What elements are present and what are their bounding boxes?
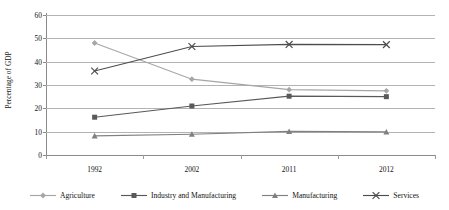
data-point-marker-square xyxy=(384,94,389,99)
series-line xyxy=(95,44,387,71)
data-point-marker-diamond xyxy=(189,76,195,82)
y-tick-label-20: 20 xyxy=(35,104,42,113)
series-line xyxy=(95,96,387,117)
y-tick-label-30: 30 xyxy=(35,81,42,90)
y-axis-title: Percentage of GDP xyxy=(0,0,18,160)
data-point-marker-square xyxy=(189,104,194,109)
legend-swatch-diamond-icon xyxy=(30,190,56,201)
series-layer xyxy=(46,15,435,155)
gdp-composition-line-chart: Percentage of GDP 0102030405060 19922002… xyxy=(0,0,449,210)
data-point-marker-diamond xyxy=(40,192,46,198)
legend-label: Manufacturing xyxy=(292,191,337,200)
y-tick-label-0: 0 xyxy=(38,151,42,160)
data-point-marker-square xyxy=(131,193,136,198)
legend-item-agriculture[interactable]: Agriculture xyxy=(30,190,95,201)
legend-item-manufacturing[interactable]: Manufacturing xyxy=(262,190,337,201)
series-line xyxy=(95,131,387,135)
y-tick-label-60: 60 xyxy=(35,11,42,20)
data-point-marker-square xyxy=(92,115,97,120)
y-tick-label-40: 40 xyxy=(35,57,42,66)
series-line xyxy=(95,43,387,91)
legend-label: Agriculture xyxy=(60,191,95,200)
y-tick-label-10: 10 xyxy=(35,127,42,136)
legend-label: Services xyxy=(393,191,419,200)
x-axis-tick-mark xyxy=(338,155,339,159)
series-services xyxy=(91,41,390,74)
plot-area: 0102030405060 1992200220112012 xyxy=(46,15,435,155)
series-manufacturing xyxy=(92,128,390,138)
data-point-marker-diamond xyxy=(92,40,98,46)
x-axis-tick-mark xyxy=(435,155,436,159)
data-point-marker-diamond xyxy=(383,88,389,94)
x-tick-label-2002: 2002 xyxy=(184,165,199,174)
chart-legend: AgricultureIndustry and ManufacturingMan… xyxy=(0,186,449,204)
x-tick-label-2012: 2012 xyxy=(379,165,394,174)
legend-swatch-cross-icon xyxy=(363,190,389,201)
legend-swatch-square-icon xyxy=(121,190,147,201)
x-axis-tick-mark xyxy=(143,155,144,159)
legend-item-services[interactable]: Services xyxy=(363,190,419,201)
x-tick-label-2011: 2011 xyxy=(282,165,297,174)
legend-item-industry-and-manufacturing[interactable]: Industry and Manufacturing xyxy=(121,190,236,201)
legend-swatch-triangle-icon xyxy=(262,190,288,201)
y-tick-label-50: 50 xyxy=(35,34,42,43)
x-axis-tick-mark xyxy=(241,155,242,159)
x-tick-label-1992: 1992 xyxy=(87,165,102,174)
series-agriculture xyxy=(92,40,390,94)
series-industry-and-manufacturing xyxy=(92,94,389,120)
y-axis-title-label: Percentage of GDP xyxy=(5,51,13,108)
data-point-marker-square xyxy=(287,94,292,99)
data-point-marker-diamond xyxy=(286,87,292,93)
data-point-marker-cross xyxy=(91,68,98,75)
x-axis-tick-mark xyxy=(46,155,47,159)
legend-label: Industry and Manufacturing xyxy=(151,191,236,200)
